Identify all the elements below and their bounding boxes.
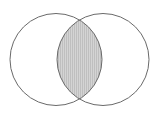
venn-diagram-figure (0, 0, 160, 123)
venn-circle-right (57, 14, 149, 106)
venn-diagram-canvas (0, 0, 160, 123)
